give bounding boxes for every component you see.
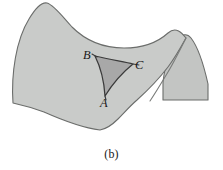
saddle-surface-illustration bbox=[0, 0, 223, 170]
figure-container: B C A (b) bbox=[0, 0, 223, 170]
figure-caption: (b) bbox=[0, 147, 223, 162]
triangle-vertex-label-c: C bbox=[135, 59, 143, 72]
triangle-vertex-label-b: B bbox=[83, 49, 91, 62]
triangle-vertex-label-a: A bbox=[100, 97, 108, 110]
